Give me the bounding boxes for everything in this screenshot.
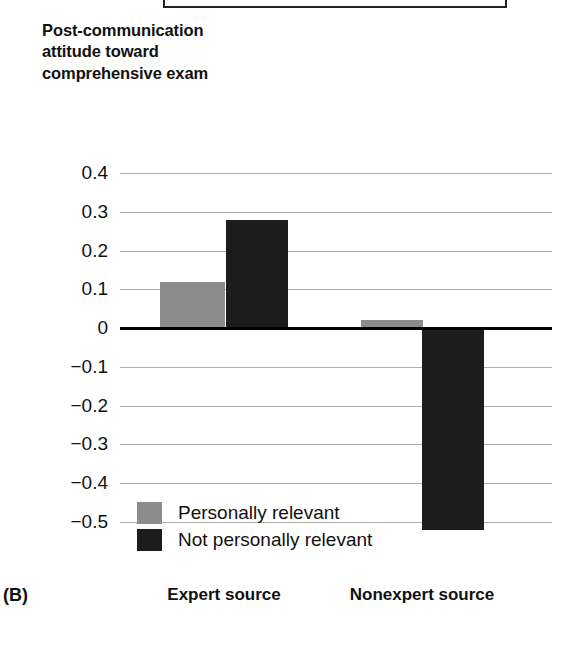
y-axis-tick-label: 0.4 (28, 162, 108, 184)
y-axis-tick-label: −0.2 (28, 395, 108, 417)
y-axis-title: Post-communication attitude toward compr… (42, 20, 252, 84)
gridline (120, 406, 552, 407)
legend-label: Personally relevant (178, 502, 340, 524)
gridline (120, 251, 552, 252)
y-axis-tick-label: 0.2 (28, 240, 108, 262)
gridline (120, 367, 552, 368)
y-axis-tick-label: −0.4 (28, 472, 108, 494)
bar-expert-source-personally-relevant (160, 282, 225, 329)
bar-expert-source-not-personally-relevant (226, 220, 288, 329)
legend-label: Not personally relevant (178, 529, 372, 551)
y-axis-tick-label: −0.1 (28, 356, 108, 378)
gridline (120, 212, 552, 213)
plot-area: 0.40.30.20.10−0.1−0.2−0.3−0.4−0.5 (120, 173, 552, 522)
zero-axis-line (120, 327, 552, 330)
panel-letter: (B) (3, 585, 28, 606)
gridline (120, 173, 552, 174)
gridline (120, 483, 552, 484)
y-axis-tick-label: 0.1 (28, 278, 108, 300)
gridline (120, 444, 552, 445)
y-axis-tick-label: 0 (28, 317, 108, 339)
y-axis-tick-label: −0.3 (28, 433, 108, 455)
bar-nonexpert-source-not-personally-relevant (422, 328, 484, 530)
chart-legend: Personally relevant Not personally relev… (137, 499, 372, 553)
x-axis-category-nonexpert-source: Nonexpert source (350, 585, 495, 605)
legend-item-personally-relevant[interactable]: Personally relevant (137, 499, 372, 526)
legend-swatch-icon (137, 529, 162, 551)
x-axis-category-expert-source: Expert source (167, 585, 280, 605)
top-box-fragment (163, 0, 507, 8)
legend-swatch-icon (137, 502, 162, 524)
y-axis-tick-label: −0.5 (28, 511, 108, 533)
legend-item-not-personally-relevant[interactable]: Not personally relevant (137, 526, 372, 553)
y-axis-tick-label: 0.3 (28, 201, 108, 223)
